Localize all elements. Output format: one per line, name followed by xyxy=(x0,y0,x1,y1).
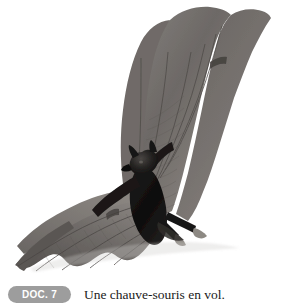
figure-caption-row: DOC. 7 Une chauve-souris en vol. xyxy=(0,281,286,308)
doc-number-badge: DOC. 7 xyxy=(8,286,71,303)
document-figure: DOC. 7 Une chauve-souris en vol. xyxy=(0,0,286,308)
figure-caption-text: Une chauve-souris en vol. xyxy=(84,287,225,302)
bat-photo xyxy=(0,0,286,281)
bat-illustration xyxy=(0,0,286,281)
bat-eye xyxy=(139,160,143,163)
